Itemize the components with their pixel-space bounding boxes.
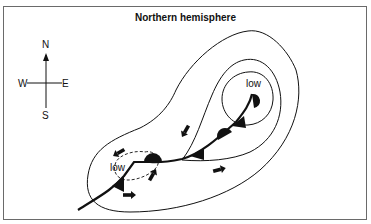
compass-west: W — [18, 78, 28, 89]
compass-east: E — [62, 78, 69, 89]
middle-isobar — [182, 59, 281, 160]
compass-south: S — [42, 110, 49, 121]
cold-front-symbols — [112, 116, 246, 192]
compass-north: N — [42, 39, 49, 50]
occluded-front — [78, 94, 252, 210]
low-pressure-label-main: low — [246, 78, 262, 89]
low-pressure-label-secondary: low — [110, 162, 126, 173]
weather-map: N S W E low low — [0, 0, 371, 224]
compass-icon — [27, 53, 62, 108]
